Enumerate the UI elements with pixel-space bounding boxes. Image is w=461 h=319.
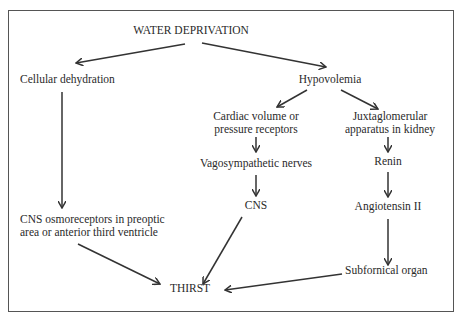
arrow-hypovolemia-to-cardiac <box>277 90 307 107</box>
arrow-water-to-cellular <box>76 44 185 63</box>
arrow-subfornical-to-thirst <box>225 274 342 290</box>
node-renin: Renin <box>348 155 428 168</box>
node-subfornical-organ: Subfornical organ <box>345 264 428 277</box>
node-cardiac-receptors-line1: Cardiac volume or <box>195 110 317 123</box>
arrow-hypovolemia-to-juxtaglomerular <box>341 90 378 109</box>
node-thirst: THIRST <box>160 282 220 295</box>
node-juxtaglomerular-line1: Juxtaglomerular <box>335 110 445 123</box>
node-cardiac-receptors-line2: pressure receptors <box>195 123 317 136</box>
node-water-deprivation: WATER DEPRIVATION <box>120 24 262 37</box>
node-cardiac-receptors: Cardiac volume or pressure receptors <box>195 110 317 136</box>
arrow-osmoreceptors-to-thirst <box>78 244 160 284</box>
node-cns: CNS <box>226 199 286 212</box>
node-juxtaglomerular: Juxtaglomerular apparatus in kidney <box>335 110 445 136</box>
node-angiotensin: Angiotensin II <box>338 200 438 213</box>
node-vagosympathetic: Vagosympathetic nerves <box>186 157 326 170</box>
node-juxtaglomerular-line2: apparatus in kidney <box>335 123 445 136</box>
arrow-water-to-hypovolemia <box>202 43 326 67</box>
node-cellular-dehydration: Cellular dehydration <box>20 73 115 86</box>
node-cns-osmoreceptors: CNS osmoreceptors in preoptic area or an… <box>20 213 165 239</box>
node-hypovolemia: Hypovolemia <box>280 73 380 86</box>
arrow-cns-to-thirst <box>203 217 242 284</box>
node-cns-osmoreceptors-line1: CNS osmoreceptors in preoptic <box>20 213 165 226</box>
node-cns-osmoreceptors-line2: area or anterior third ventricle <box>20 226 165 239</box>
